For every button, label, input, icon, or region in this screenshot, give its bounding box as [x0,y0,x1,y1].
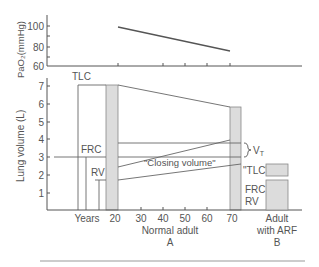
vol-tick-5: 5 [38,117,44,128]
group-b-label-2: with ARF [256,225,297,236]
group-a-label: Normal adult [142,225,199,236]
pao2-panel: 100 80 60 PaO₂(mmHg) [15,15,302,78]
age70-bar [230,107,241,210]
arf-rv-label: RV [245,196,259,207]
pao2-tick-60: 60 [33,61,45,72]
arf-tlc-box [266,164,288,176]
arf-frc-label: FRC [245,184,266,195]
xtick-70: 70 [226,213,238,224]
group-b-letter: B [274,237,281,248]
rv-label: RV [91,167,105,178]
group-a-letter: A [167,237,174,248]
pao2-tick-100: 100 [27,21,44,32]
xtick-60: 60 [201,213,213,224]
lung-volume-panel: 7 6 5 4 3 2 1 Lung volume (L) Years 20 3… [15,71,302,248]
volume-y-label: Lung volume (L) [15,110,26,182]
tlc-label: TLC [72,71,91,82]
lung-volume-diagram: 100 80 60 PaO₂(mmHg) [0,0,319,267]
frc-label: FRC [81,144,102,155]
vol-tick-3: 3 [38,152,44,163]
vol-tick-4: 4 [38,134,44,145]
pao2-line [118,27,230,51]
group-b-label-1: Adult [266,213,289,224]
closing-volume-label: "Closing volume" [144,157,216,168]
tlc-trend [118,85,230,107]
xtick-20: 20 [109,213,121,224]
pao2-tick-80: 80 [33,42,45,53]
vol-tick-6: 6 [38,99,44,110]
xtick-50: 50 [179,213,191,224]
arf-frc-rv-box [266,180,288,210]
xtick-30: 30 [135,213,147,224]
vt-label: VT [253,145,265,157]
pao2-y-label: PaO₂(mmHg) [15,21,26,78]
age20-bar [106,85,118,210]
vol-tick-7: 7 [38,81,44,92]
vol-tick-2: 2 [38,170,44,181]
arf-tlc-label: "TLC" [243,165,269,176]
xtick-years: Years [74,213,99,224]
vt-brace [244,143,251,157]
vol-tick-1: 1 [38,188,44,199]
xtick-40: 40 [157,213,169,224]
